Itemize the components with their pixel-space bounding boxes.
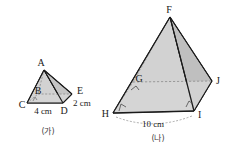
na-vertex-label-back: G bbox=[135, 73, 142, 84]
na-caption: (나) bbox=[151, 134, 164, 143]
figure-na-canvas: F G J H I 10 cm (나) bbox=[0, 0, 226, 146]
na-vertex-label-left-base: H bbox=[102, 108, 109, 119]
na-vertex-label-apex: F bbox=[166, 4, 172, 15]
na-vertex-label-front-base: I bbox=[198, 109, 201, 120]
na-dimension-base-edge: 10 cm bbox=[142, 119, 164, 129]
na-vertex-label-right: J bbox=[216, 75, 220, 86]
geometry-figure-page: A B E C D 4 cm 2 cm (가) bbox=[0, 0, 226, 146]
